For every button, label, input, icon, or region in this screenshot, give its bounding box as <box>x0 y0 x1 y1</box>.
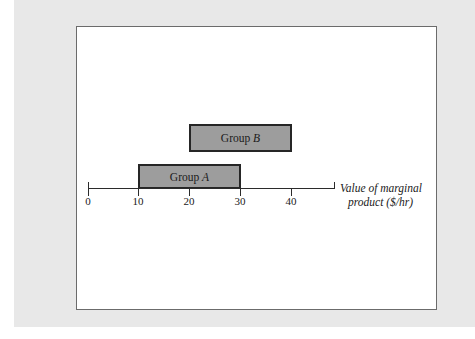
x-axis-title-line1: Value of marginal <box>340 182 422 194</box>
axis-tick-label-20: 20 <box>174 195 204 207</box>
x-axis-title: Value of marginal product ($/hr) <box>340 182 444 209</box>
bar-group-b-label: Group B <box>221 132 260 144</box>
x-axis-title-line2: product ($/hr) <box>340 196 444 210</box>
axis-tick-label-40: 40 <box>276 195 306 207</box>
bar-group-a-label: Group A <box>170 171 209 183</box>
chart-plate <box>76 26 437 310</box>
bar-group-a: Group A <box>138 164 241 189</box>
figure-root: Group B Group A 0 10 20 30 40 Value of m… <box>0 0 475 339</box>
axis-tick-label-30: 30 <box>225 195 255 207</box>
axis-tick-label-10: 10 <box>123 195 153 207</box>
axis-tick-label-0: 0 <box>73 195 103 207</box>
bar-group-b: Group B <box>189 124 292 152</box>
x-axis-line <box>88 188 335 189</box>
axis-end-cap <box>334 182 335 188</box>
